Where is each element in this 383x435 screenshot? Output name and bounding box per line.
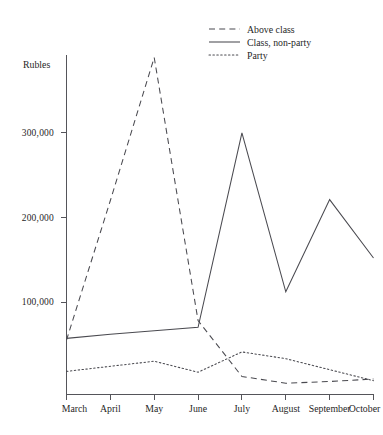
chart-canvas: Above class Class, non-party Party Ruble… [0,0,383,435]
series-line-party [67,352,374,381]
series-line-class-non-party [67,133,374,339]
x-axis-tick-label: July [234,403,250,414]
y-axis-title: Rubles [23,59,50,70]
x-axis-tick-label: September [309,403,352,414]
y-axis-tick-label: 100,000 [22,297,54,307]
x-axis-tick-label: August [272,403,301,414]
x-axis-tick-label: March [62,403,88,414]
x-axis-ticks [67,395,374,400]
x-axis-tick-label: May [145,403,163,414]
y-axis-tick-label: 300,000 [22,128,54,138]
line-chart-figure: Above class Class, non-party Party Ruble… [0,0,383,435]
legend-label-above-class: Above class [247,24,295,35]
legend-label-party: Party [247,50,268,61]
legend-item-class-non-party: Class, non-party [209,37,311,48]
legend-label-class-non-party: Class, non-party [247,37,311,48]
legend-item-party: Party [209,50,268,61]
legend-item-above-class: Above class [209,24,295,35]
data-series-group [67,58,374,384]
x-axis-tick-label: April [100,403,121,414]
legend: Above class Class, non-party Party [209,24,311,61]
y-axis-ticks [61,133,67,302]
y-axis-tick-labels: 100,000200,000300,000 [22,128,54,307]
x-axis-tick-label: June [189,403,208,414]
x-axis-tick-label: October [349,403,381,414]
x-axis-tick-labels: MarchAprilMayJuneJulyAugustSeptemberOcto… [62,403,381,414]
y-axis-tick-label: 200,000 [22,213,54,223]
